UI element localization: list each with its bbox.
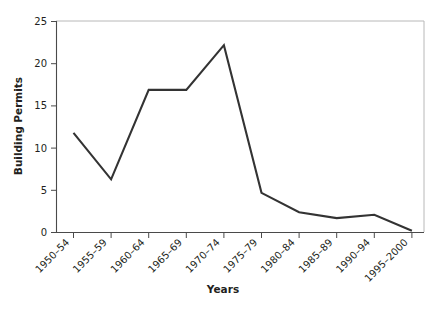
x-tick-label: 1965–69 <box>146 237 184 275</box>
x-tick-label: 1985–89 <box>296 237 334 275</box>
y-tick-label: 5 <box>41 185 47 196</box>
plot-frame <box>56 21 424 232</box>
x-tick-label: 1975–79 <box>221 237 259 275</box>
y-tick-label: 0 <box>41 227 47 238</box>
y-tick-label: 15 <box>34 100 47 111</box>
y-tick-label: 10 <box>34 143 47 154</box>
line-chart: 0 5 10 15 20 25 Building Permits 1950–54… <box>0 0 445 309</box>
x-axis-title: Years <box>206 283 239 295</box>
x-tick-label: 1955–59 <box>71 237 109 275</box>
x-axis-ticks <box>74 233 412 239</box>
x-tick-label: 1980–84 <box>259 237 297 275</box>
y-axis-tick-labels: 0 5 10 15 20 25 <box>34 16 47 238</box>
x-tick-label: 1970–74 <box>183 237 221 275</box>
y-axis-ticks <box>51 22 56 233</box>
x-tick-label: 1990–94 <box>334 237 372 275</box>
x-axis-tick-labels: 1950–54 1955–59 1960–64 1965–69 1970–74 … <box>33 237 410 284</box>
x-tick-label: 1950–54 <box>33 237 71 275</box>
y-tick-label: 20 <box>34 58 47 69</box>
chart-page: 0 5 10 15 20 25 Building Permits 1950–54… <box>0 0 445 309</box>
y-axis-title: Building Permits <box>12 77 24 175</box>
y-tick-label: 25 <box>34 16 47 27</box>
x-tick-label: 1960–64 <box>108 237 146 275</box>
data-series-line <box>74 45 412 231</box>
